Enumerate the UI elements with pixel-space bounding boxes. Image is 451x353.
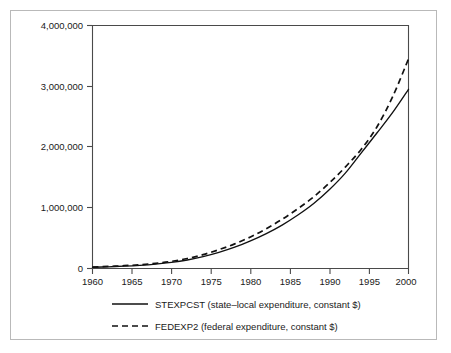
axes (93, 25, 410, 269)
x-tick-label-1980: 1980 (240, 276, 261, 287)
series-line-stexpcst (93, 89, 409, 267)
x-tick-label-1990: 1990 (319, 276, 340, 287)
figure-container: 0 1,000,000 2,000,000 3,000,000 4,000,00… (0, 0, 451, 353)
legend-label-stexpcst: STEXPCST (state–local expenditure, const… (155, 299, 361, 310)
series-line-fedexp2 (93, 59, 409, 267)
y-tick-label-4000000: 4,000,000 (41, 20, 83, 31)
x-tick-label-2000: 2000 (395, 276, 416, 287)
x-tick-label-1970: 1970 (161, 276, 182, 287)
x-tick-label-1975: 1975 (201, 276, 222, 287)
x-tick-label-1965: 1965 (121, 276, 142, 287)
y-axis-ticks: 0 1,000,000 2,000,000 3,000,000 4,000,00… (41, 20, 93, 274)
y-tick-label-3000000: 3,000,000 (41, 81, 83, 92)
y-tick-label-1000000: 1,000,000 (41, 202, 83, 213)
legend-label-fedexp2: FEDEXP2 (federal expenditure, constant $… (155, 321, 338, 332)
x-axis-ticks: 1960 1965 1970 1975 1980 1985 1990 1995 … (82, 269, 417, 288)
x-tick-label-1960: 1960 (82, 276, 103, 287)
x-tick-label-1995: 1995 (359, 276, 380, 287)
y-tick-label-2000000: 2,000,000 (41, 141, 83, 152)
legend: STEXPCST (state–local expenditure, const… (112, 299, 361, 332)
line-chart: 0 1,000,000 2,000,000 3,000,000 4,000,00… (0, 0, 451, 353)
y-tick-label-0: 0 (78, 263, 83, 274)
x-tick-label-1985: 1985 (280, 276, 301, 287)
data-series-group (93, 59, 409, 267)
